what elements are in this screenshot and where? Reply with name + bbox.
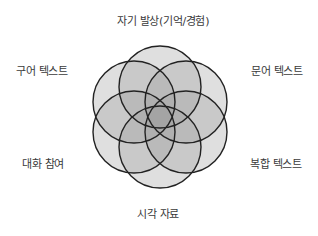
label-conversation-participation: 대화 참여 xyxy=(22,155,64,171)
label-visual-materials: 시각 자료 xyxy=(137,205,179,221)
label-self-ideation: 자기 발상(기억/경험) xyxy=(117,12,209,28)
label-multimodal-text: 복합 텍스트 xyxy=(250,155,302,171)
label-written-text: 문어 텍스트 xyxy=(251,62,303,78)
venn-diagram xyxy=(0,0,318,236)
label-spoken-text: 구어 텍스트 xyxy=(16,62,68,78)
